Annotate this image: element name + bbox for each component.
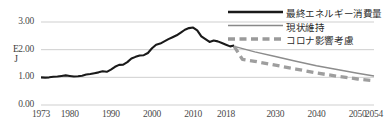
legend-label: 現状維持 [286, 20, 324, 34]
x-tick-2010: 2010 [177, 109, 209, 119]
x-tick-2030: 2030 [259, 109, 291, 119]
x-tick-2040: 2040 [300, 109, 332, 119]
x-tick-1980: 1980 [54, 109, 86, 119]
legend-label: 最終エネルギー消費量 [286, 6, 382, 20]
y-tick-3.00: 3.00 [0, 16, 34, 26]
legend-label: コロナ影響考慮 [286, 33, 353, 47]
x-tick-2000: 2000 [136, 109, 168, 119]
x-tick-2054: 2054 [358, 109, 388, 119]
series-line [41, 28, 234, 78]
x-tick-2018: 2018 [210, 109, 242, 119]
x-tick-1973: 1973 [25, 109, 57, 119]
y-tick-0.00: 0.00 [0, 99, 34, 109]
y-tick-1.00: 1.00 [0, 71, 34, 81]
legend-swatches [228, 12, 283, 39]
x-tick-1990: 1990 [95, 109, 127, 119]
y-axis-unit-line-2: J [11, 55, 21, 65]
y-tick-2.00: 2.00 [0, 44, 34, 54]
